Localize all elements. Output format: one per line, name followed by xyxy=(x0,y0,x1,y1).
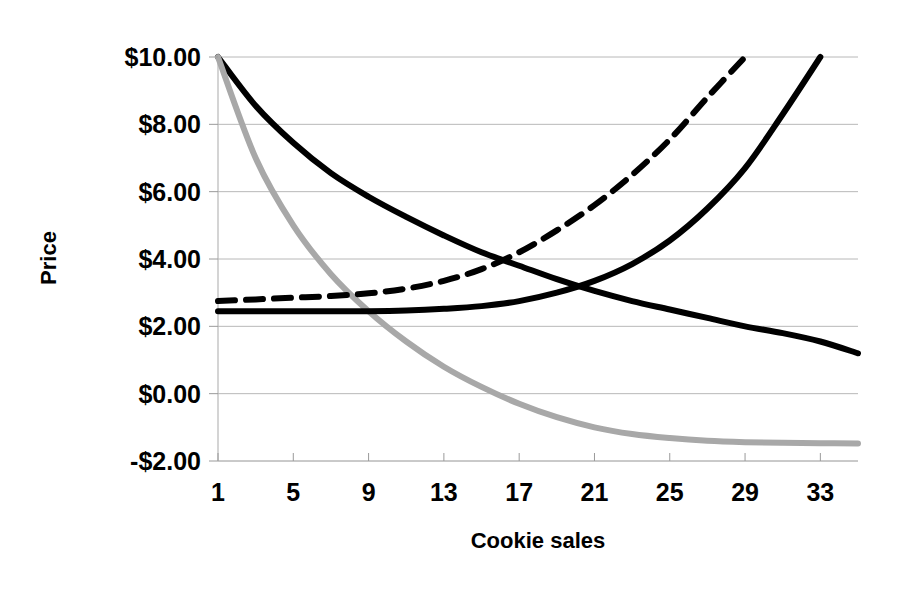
x-tick-label: 21 xyxy=(581,478,609,506)
x-tick-label: 25 xyxy=(656,478,684,506)
y-tick-label: $2.00 xyxy=(138,312,201,340)
y-tick-label: $10.00 xyxy=(125,43,201,71)
x-axis-title: Cookie sales xyxy=(471,528,606,553)
x-tick-label: 5 xyxy=(286,478,300,506)
chart-figure: -$2.00$0.00$2.00$4.00$6.00$8.00$10.00 15… xyxy=(0,0,909,590)
series-line-marginal-cost xyxy=(218,57,820,311)
x-tickmarks xyxy=(218,453,820,461)
x-tick-label: 29 xyxy=(731,478,759,506)
x-tick-label: 13 xyxy=(430,478,458,506)
series-line-average-total-cost xyxy=(218,57,745,301)
x-tick-labels: 159131721252933 xyxy=(211,478,834,506)
y-tick-label: $0.00 xyxy=(138,380,201,408)
x-tick-label: 1 xyxy=(211,478,225,506)
y-tick-label: $6.00 xyxy=(138,178,201,206)
series-line-marginal-revenue xyxy=(218,57,858,443)
y-tick-label: -$2.00 xyxy=(130,447,201,475)
gridlines xyxy=(218,57,858,461)
y-tick-label: $4.00 xyxy=(138,245,201,273)
y-tick-label: $8.00 xyxy=(138,110,201,138)
y-tick-labels: -$2.00$0.00$2.00$4.00$6.00$8.00$10.00 xyxy=(125,43,218,475)
x-tick-label: 17 xyxy=(505,478,533,506)
series-layer xyxy=(218,57,858,443)
chart-canvas: -$2.00$0.00$2.00$4.00$6.00$8.00$10.00 15… xyxy=(0,0,909,590)
y-axis-title: Price xyxy=(36,231,61,285)
x-tick-label: 33 xyxy=(806,478,834,506)
x-tick-label: 9 xyxy=(362,478,376,506)
